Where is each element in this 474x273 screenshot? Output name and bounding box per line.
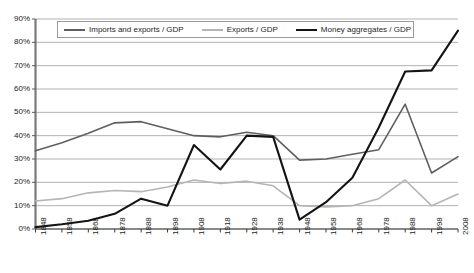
y-axis-tick-label: 90% (0, 15, 30, 23)
y-axis-tick-label: 20% (0, 178, 30, 186)
legend-label-money: Money aggregates / GDP (321, 25, 411, 34)
x-axis-tick-label: 1868 (92, 217, 100, 235)
x-axis-tick-label: 1888 (145, 217, 153, 235)
y-axis-tick-label: 40% (0, 132, 30, 140)
y-axis-tick-label: 50% (0, 108, 30, 116)
x-axis-tick-label: 1878 (119, 217, 127, 235)
legend-item-imports-exports: Imports and exports / GDP (58, 25, 184, 34)
legend-line-money-icon (296, 29, 317, 31)
series-line (36, 180, 459, 207)
y-axis-tick-label: 0% (0, 225, 30, 233)
y-axis-tick-label: 30% (0, 155, 30, 163)
series-line (36, 104, 459, 173)
legend-item-exports: Exports / GDP (196, 25, 278, 34)
x-axis-tick-label: 1968 (356, 217, 364, 235)
x-axis-tick-label: 1948 (304, 217, 312, 235)
y-axis-tick-label: 10% (0, 202, 30, 210)
y-axis-tick-label: 80% (0, 38, 30, 46)
x-axis-tick-label: 1928 (251, 217, 259, 235)
x-axis-tick-label: 1938 (277, 217, 285, 235)
x-axis-tick-label: 1988 (409, 217, 417, 235)
x-axis-tick-label: 1908 (198, 217, 206, 235)
x-axis-tick-label: 1998 (436, 217, 444, 235)
legend-label-imports-exports: Imports and exports / GDP (89, 25, 184, 34)
legend-line-imports-exports-icon (64, 29, 85, 31)
legend-item-money: Money aggregates / GDP (290, 25, 411, 34)
legend-label-exports: Exports / GDP (227, 25, 278, 34)
x-axis-tick-label: 1848 (40, 217, 48, 235)
chart-legend: Imports and exports / GDP Exports / GDP … (57, 21, 414, 38)
legend-line-exports-icon (202, 29, 223, 31)
x-axis-tick-label: 1858 (66, 217, 74, 235)
y-axis-tick-label: 70% (0, 62, 30, 70)
x-axis-tick-label: 1898 (172, 217, 180, 235)
x-axis-tick-label: 1978 (383, 217, 391, 235)
x-axis-tick-label: 1918 (224, 217, 232, 235)
y-axis-tick-label: 60% (0, 85, 30, 93)
chart-container: 0%10%20%30%40%50%60%70%80%90% 1848185818… (0, 0, 474, 273)
x-axis-tick-label: 2008 (462, 217, 470, 235)
x-axis-tick-label: 1958 (330, 217, 338, 235)
